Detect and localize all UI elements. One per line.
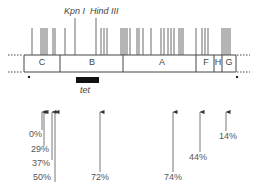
fragment-h: H [215,58,222,67]
arrow-label-37: 37% [32,159,50,168]
arrow-label-14: 14% [219,132,237,141]
origin-marker-left [28,76,30,78]
arrow-label-44: 44% [189,153,207,162]
fragment-b: B [89,58,95,67]
arrows [42,112,226,182]
fragment-a: A [159,58,165,67]
tet-label: tet [80,86,90,95]
arrow-label-72: 72% [91,173,109,182]
arrow-label-0: 0% [29,130,42,139]
restriction-sites [32,18,230,55]
hind-label: Hind III [90,7,119,16]
tet-gene-bar [76,77,99,83]
origin-marker-right [236,76,238,78]
arrow-label-50: 50% [33,173,51,182]
fragment-c: C [39,58,46,67]
arrow-label-29: 29% [31,145,49,154]
fragment-f: F [203,58,209,67]
fragment-g: G [225,58,232,67]
kpn-label: Kpn I [64,7,85,16]
arrow-label-74: 74% [164,173,182,182]
